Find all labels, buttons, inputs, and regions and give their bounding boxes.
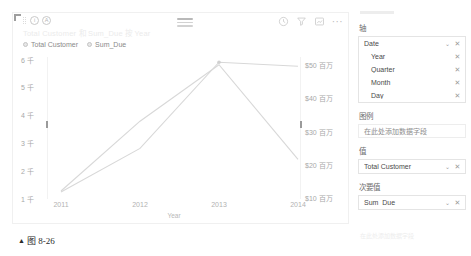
field-name: Quarter — [364, 66, 444, 73]
field-section-label: 值 — [359, 145, 466, 156]
chevron-down-icon[interactable]: ⌄ — [444, 40, 451, 47]
field-row[interactable]: Quarter ✕ — [359, 63, 465, 76]
hamburger-handle-icon[interactable] — [177, 18, 193, 27]
field-name: Sum_Due — [364, 199, 444, 206]
chevron-down-icon[interactable]: ⌄ — [444, 163, 451, 170]
remove-field-icon[interactable]: ✕ — [454, 53, 461, 60]
field-name: Month — [364, 79, 444, 86]
field-section-label: 图例 — [359, 110, 466, 121]
legend-field-dropzone[interactable]: 在此处添加数据字段 — [358, 124, 466, 138]
filter-icon[interactable] — [296, 16, 307, 27]
series-line-total-customer — [61, 62, 298, 192]
field-row[interactable]: Year ✕ — [359, 50, 465, 63]
secondary-values-field-list[interactable]: Sum_Due ⌄ ✕ — [358, 195, 466, 210]
visualization-fields-panel: 轴 Date ⌄ ✕ Year ✕ Quarter ✕ — [358, 8, 466, 248]
field-section-secondary-values: 次要值 Sum_Due ⌄ ✕ — [358, 181, 466, 210]
remove-field-icon[interactable]: ✕ — [454, 79, 461, 86]
remove-field-icon[interactable]: ✕ — [454, 163, 461, 170]
info-icon[interactable]: i — [30, 16, 39, 25]
chart-legend: Total Customer Sum_Due — [23, 41, 126, 48]
data-point-marker — [217, 60, 221, 64]
field-row[interactable]: Sum_Due ⌄ ✕ — [359, 196, 465, 209]
accessibility-icon[interactable]: A — [42, 16, 51, 25]
chevron-down-icon[interactable]: ⌄ — [444, 199, 451, 206]
legend-item-label: Total Customer — [31, 41, 78, 48]
panel-divider — [360, 11, 394, 14]
focus-mode-icon[interactable] — [314, 16, 325, 27]
field-row[interactable]: Day ✕ — [359, 89, 465, 102]
field-name: Date — [364, 40, 444, 47]
field-row[interactable]: Month ✕ — [359, 76, 465, 89]
line-chart-visual[interactable]: i A ··· Total Custom — [12, 12, 349, 224]
legend-item-label: Sum_Due — [95, 41, 126, 48]
visual-title: Total Customer 和 Sum_Due 按 Year — [23, 27, 150, 38]
legend-item[interactable]: Total Customer — [23, 41, 78, 48]
figure-caption: ▲图 8-26 — [18, 234, 55, 247]
field-section-label: 次要值 — [359, 181, 466, 192]
field-name: Total Customer — [364, 163, 444, 170]
field-row[interactable]: Date ⌄ ✕ — [359, 37, 465, 50]
field-section-legend: 图例 在此处添加数据字段 — [358, 110, 466, 138]
field-section-values: 值 Total Customer ⌄ ✕ — [358, 145, 466, 174]
field-section-label: 轴 — [359, 22, 466, 33]
remove-field-icon[interactable]: ✕ — [454, 92, 461, 99]
x-axis-title: Year — [167, 212, 180, 219]
remove-field-icon[interactable]: ✕ — [454, 199, 461, 206]
remove-field-icon[interactable]: ✕ — [454, 40, 461, 47]
chart-plot-area: 6 千 5 千 4 千 3 千 2 千 1 千 $50 百万 $40 百万 $3… — [21, 55, 343, 207]
legend-item[interactable]: Sum_Due — [87, 41, 126, 48]
legend-swatch-icon — [87, 42, 92, 47]
field-row[interactable]: Total Customer ⌄ ✕ — [359, 160, 465, 173]
caption-text: 图 8-26 — [27, 236, 55, 246]
legend-swatch-icon — [23, 42, 28, 47]
dropzone-placeholder-text: 在此处添加数据字段 — [364, 126, 427, 136]
more-options-icon[interactable]: ··· — [332, 19, 343, 25]
history-icon[interactable] — [278, 16, 289, 27]
visual-header-left-icons: i A — [23, 16, 51, 25]
axis-field-list[interactable]: Date ⌄ ✕ Year ✕ Quarter ✕ Month ✕ — [358, 36, 466, 103]
chart-series-svg — [21, 55, 343, 205]
remove-field-icon[interactable]: ✕ — [454, 66, 461, 73]
values-field-list[interactable]: Total Customer ⌄ ✕ — [358, 159, 466, 174]
field-name: Day — [364, 92, 444, 99]
drag-dots-icon[interactable] — [23, 16, 27, 25]
field-section-axis: 轴 Date ⌄ ✕ Year ✕ Quarter ✕ — [358, 22, 466, 103]
caption-triangle-icon: ▲ — [18, 237, 25, 245]
panel-bottom-ghost-text: 在此处添加数据字段 — [360, 231, 414, 240]
visual-header-right-icons: ··· — [278, 16, 343, 27]
field-name: Year — [364, 53, 444, 60]
resize-handle-icon[interactable] — [14, 14, 21, 21]
screenshot-root: i A ··· Total Custom — [0, 0, 471, 256]
